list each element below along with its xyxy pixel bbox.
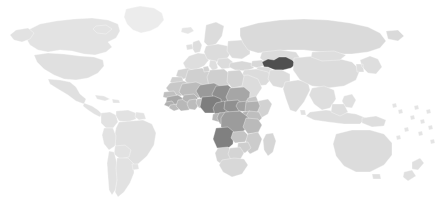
country-venezuela[interactable] — [116, 110, 136, 122]
country-egypt[interactable] — [227, 70, 244, 88]
country-sri-lanka[interactable] — [300, 110, 306, 115]
country-ireland[interactable] — [186, 44, 193, 50]
country-uruguay[interactable] — [132, 164, 139, 170]
country-tasmania[interactable] — [372, 174, 381, 179]
world-choropleth-figure — [0, 0, 439, 211]
world-map-svg — [0, 0, 439, 211]
